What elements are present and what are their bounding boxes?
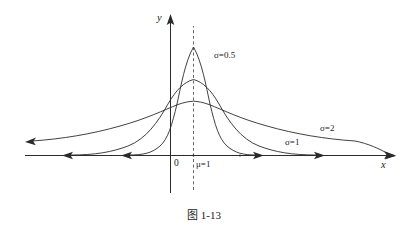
curve-sigma-2-right-tail xyxy=(355,141,390,155)
figure-caption: 图 1-13 xyxy=(0,206,408,222)
normal-distribution-plot xyxy=(0,0,408,233)
axis-tick-dot xyxy=(239,155,241,157)
y-axis-label: y xyxy=(157,13,162,24)
origin-label: 0 xyxy=(174,159,179,169)
mean-label: μ=1 xyxy=(196,160,210,169)
x-axis-label: x xyxy=(381,160,386,171)
series-label-sigma-1: σ=1 xyxy=(285,138,299,147)
figure-container: y x 0 μ=1 σ=0.5 σ=1 σ=2 图 1-13 xyxy=(0,0,408,233)
mean-tick-dot xyxy=(192,154,194,156)
series-label-sigma-2: σ=2 xyxy=(320,124,334,133)
series-label-sigma-0-5: σ=0.5 xyxy=(214,51,235,60)
curve-sigma-2-left-arrowhead xyxy=(25,138,36,146)
